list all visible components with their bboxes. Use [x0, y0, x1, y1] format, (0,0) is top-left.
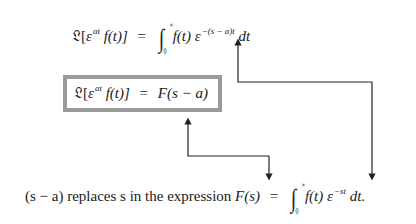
upper-connector-arrow	[238, 42, 372, 177]
connector-arrows	[0, 0, 416, 224]
lower-connector-arrow	[188, 121, 269, 177]
